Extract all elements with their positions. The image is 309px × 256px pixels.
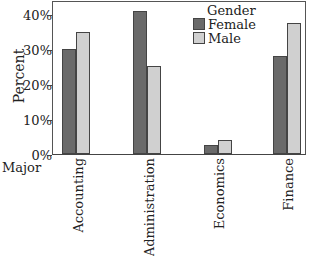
plot-area: Gender Female Male — [52, 1, 306, 155]
legend-label-female: Female — [208, 17, 256, 32]
bar-economics-male — [218, 140, 232, 154]
bar-accounting-female — [62, 49, 76, 154]
x-axis-label: Major — [2, 160, 41, 175]
bar-administration-female — [133, 11, 147, 154]
legend-title: Gender — [193, 4, 256, 18]
male-swatch-icon — [193, 32, 205, 44]
bar-administration-male — [147, 66, 161, 154]
female-swatch-icon — [193, 18, 205, 30]
bar-accounting-male — [76, 32, 90, 154]
bar-finance-female — [273, 56, 287, 154]
x-tick-accounting: Accounting — [71, 158, 86, 233]
tick-mark — [47, 155, 52, 156]
bar-finance-male — [287, 23, 301, 154]
legend-item-female: Female — [193, 18, 256, 32]
legend-item-male: Male — [193, 32, 256, 46]
x-tick-economics: Economics — [212, 158, 227, 229]
x-tick-administration: Administration — [142, 158, 157, 256]
bar-economics-female — [204, 145, 218, 154]
x-tick-finance: Finance — [281, 158, 296, 211]
legend-label-male: Male — [208, 31, 241, 46]
legend: Gender Female Male — [193, 4, 256, 46]
